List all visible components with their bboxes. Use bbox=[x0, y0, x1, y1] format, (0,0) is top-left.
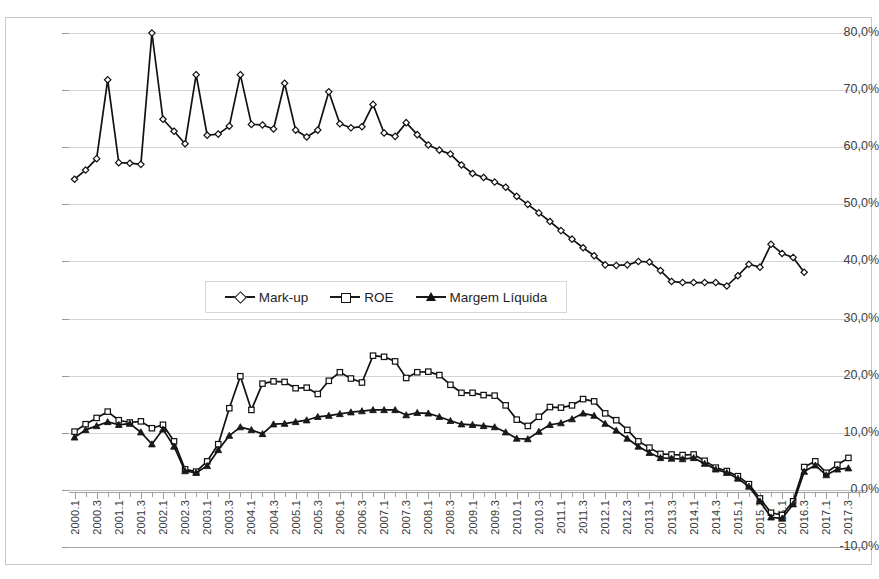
chart-container: 80,0%70,0%60,0%50,0%40,0%30,0%20,0%10,0%… bbox=[0, 0, 879, 579]
series-roe bbox=[72, 353, 851, 518]
series-mark-up bbox=[71, 30, 807, 289]
legend-item-roe[interactable]: ROE bbox=[330, 290, 393, 305]
legend-item-margem-liquida[interactable]: Margem Líquida bbox=[416, 290, 548, 305]
square-marker-icon bbox=[330, 291, 360, 303]
diamond-marker-icon bbox=[225, 291, 255, 303]
legend-label-markup: Mark-up bbox=[259, 290, 309, 305]
triangle-marker-icon bbox=[416, 291, 446, 303]
chart-legend: Mark-up ROE Margem Líquida bbox=[205, 281, 567, 313]
legend-label-roe: ROE bbox=[364, 290, 393, 305]
legend-item-markup[interactable]: Mark-up bbox=[225, 290, 309, 305]
series-margem-l-quida bbox=[71, 407, 852, 522]
legend-label-margem-liquida: Margem Líquida bbox=[450, 290, 548, 305]
